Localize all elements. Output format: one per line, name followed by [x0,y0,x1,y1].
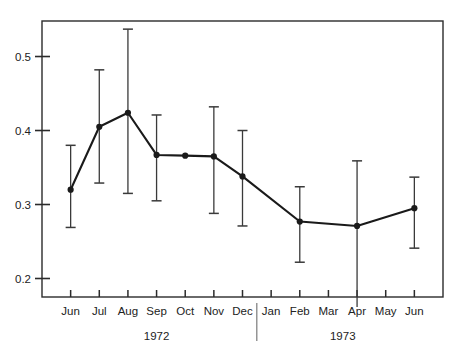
x-axis-month-label: May [375,305,397,317]
data-point-marker [211,153,217,159]
x-axis-month-label: Nov [204,305,225,317]
x-axis-month-label: Sep [146,305,166,317]
year-label-1973: 1973 [330,330,356,342]
chart-container: 0.50.40.30.2JunJulAugSepOctNovDecJanFebM… [0,0,461,360]
x-axis-month-label: Mar [319,305,339,317]
data-point-marker [297,218,303,224]
data-point-marker [125,110,131,116]
y-axis-tick-label: 0.3 [15,199,31,211]
data-point-marker [96,124,102,130]
data-point-marker [182,153,188,159]
x-axis-month-label: Jul [92,305,107,317]
x-axis-month-label: Feb [290,305,310,317]
y-axis-tick-label: 0.5 [15,51,31,63]
x-axis-month-label: Jun [405,305,424,317]
y-axis-tick-label: 0.2 [15,273,31,285]
x-axis-month-label: Jan [262,305,281,317]
data-point-marker [411,205,417,211]
data-point-marker [68,187,74,193]
y-axis-tick-label: 0.4 [15,125,32,137]
x-axis-month-label: Aug [118,305,138,317]
x-axis-month-label: Dec [232,305,253,317]
year-label-1972: 1972 [144,330,170,342]
data-point-marker [239,173,245,179]
x-axis-month-label: Jun [61,305,80,317]
data-point-marker [153,152,159,158]
data-point-marker [354,223,360,229]
x-axis-month-label: Oct [176,305,195,317]
line-chart-with-error-bars: 0.50.40.30.2JunJulAugSepOctNovDecJanFebM… [0,0,461,360]
